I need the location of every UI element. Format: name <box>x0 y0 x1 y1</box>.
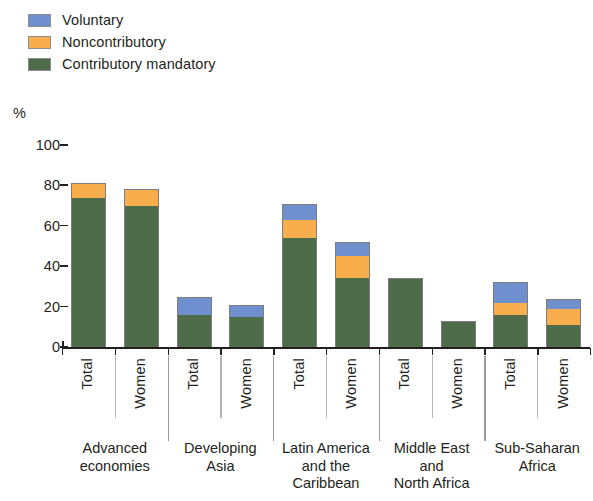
bar-segment-contributory-mandatory <box>493 315 528 347</box>
group-separator <box>432 356 433 418</box>
group-separator <box>273 356 274 441</box>
bar-segment-noncontributory <box>335 256 370 278</box>
x-tick <box>537 348 538 355</box>
x-label-total: Total <box>396 358 412 390</box>
bar-segment-contributory-mandatory <box>546 325 581 347</box>
stacked-bar <box>388 278 423 347</box>
bar-segment-contributory-mandatory <box>335 278 370 347</box>
bar-segment-noncontributory <box>124 189 159 205</box>
stacked-bar <box>229 305 264 347</box>
stacked-bar <box>546 299 581 347</box>
bar-segment-contributory-mandatory <box>71 198 106 347</box>
x-axis-left-stub <box>62 341 64 348</box>
x-tick <box>273 348 274 355</box>
group-label: Latin America and the Caribbean <box>267 440 385 493</box>
bar-segment-voluntary <box>546 299 581 309</box>
group-separator <box>168 356 169 441</box>
bar-segment-voluntary <box>177 297 212 315</box>
group-separator <box>326 356 327 418</box>
x-tick <box>62 348 63 355</box>
chart-plot-area: 100806040200 TotalWomenTotalWomenTotalWo… <box>0 0 593 501</box>
bars-container <box>0 0 593 347</box>
stacked-bar <box>493 282 528 347</box>
bar-segment-contributory-mandatory <box>282 238 317 347</box>
group-separator <box>220 356 221 418</box>
x-tick <box>326 348 327 355</box>
stacked-bar <box>335 242 370 347</box>
bar-segment-contributory-mandatory <box>124 206 159 347</box>
bar-segment-voluntary <box>335 242 370 256</box>
stacked-bar <box>71 183 106 347</box>
bar-segment-noncontributory <box>546 309 581 325</box>
x-tick <box>168 348 169 355</box>
x-tick <box>432 348 433 355</box>
group-separator <box>379 356 380 441</box>
x-tick <box>379 348 380 355</box>
x-label-women: Women <box>555 358 571 409</box>
x-tick <box>115 348 116 355</box>
x-label-total: Total <box>502 358 518 390</box>
bar-segment-contributory-mandatory <box>388 278 423 347</box>
x-label-total: Total <box>79 358 95 390</box>
bar-segment-noncontributory <box>71 183 106 197</box>
x-label-women: Women <box>132 358 148 409</box>
group-separator <box>115 356 116 418</box>
group-label: Middle East and North Africa <box>373 440 491 493</box>
bar-segment-voluntary <box>229 305 264 317</box>
bar-segment-contributory-mandatory <box>229 317 264 347</box>
bar-segment-contributory-mandatory <box>441 321 476 347</box>
bar-segment-noncontributory <box>493 303 528 315</box>
stacked-bar <box>177 297 212 347</box>
x-label-total: Total <box>185 358 201 390</box>
group-separator <box>537 356 538 418</box>
group-separator <box>484 356 485 441</box>
bar-segment-voluntary <box>493 282 528 302</box>
bar-segment-contributory-mandatory <box>177 315 212 347</box>
group-label: Developing Asia <box>162 440 280 475</box>
group-label: Sub-Saharan Africa <box>478 440 593 475</box>
stacked-bar <box>124 189 159 347</box>
stacked-bar <box>441 321 476 347</box>
x-tick <box>590 348 591 355</box>
x-tick <box>484 348 485 355</box>
bar-segment-noncontributory <box>282 220 317 238</box>
stacked-bar <box>282 204 317 347</box>
group-label: Advanced economies <box>56 440 174 475</box>
x-tick <box>220 348 221 355</box>
x-label-women: Women <box>449 358 465 409</box>
x-label-total: Total <box>291 358 307 390</box>
bar-segment-voluntary <box>282 204 317 220</box>
x-label-women: Women <box>238 358 254 409</box>
x-label-women: Women <box>343 358 359 409</box>
